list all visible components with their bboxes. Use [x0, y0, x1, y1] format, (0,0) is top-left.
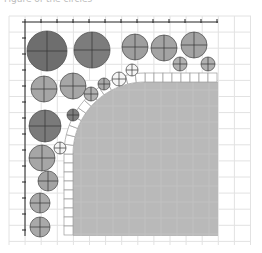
circle-marker	[112, 72, 126, 86]
tile	[135, 73, 145, 83]
circle-marker	[122, 34, 148, 60]
circle-marker	[173, 57, 187, 71]
circle-marker	[84, 87, 98, 101]
circle-marker	[74, 32, 110, 68]
circle-marker	[30, 217, 50, 237]
tile	[163, 73, 172, 82]
circle-marker	[67, 109, 79, 121]
tile	[154, 73, 163, 82]
circle-marker	[98, 78, 110, 90]
tile	[199, 73, 208, 82]
tile	[64, 199, 73, 208]
circle-packing-diagram	[0, 0, 262, 253]
circle-marker	[27, 31, 67, 71]
tile	[64, 190, 73, 199]
circle-marker	[126, 64, 138, 76]
tile	[181, 73, 190, 82]
tile	[64, 208, 73, 217]
circle-marker	[30, 193, 50, 213]
tile	[64, 226, 73, 235]
circle-marker	[54, 142, 66, 154]
tile	[64, 217, 73, 226]
tile	[208, 73, 217, 82]
circle-marker	[60, 73, 86, 99]
tile	[172, 73, 181, 82]
circle-marker	[31, 76, 57, 102]
circle-marker	[201, 57, 215, 71]
circle-marker	[151, 35, 177, 61]
circle-marker	[181, 32, 207, 58]
rounded-square-region	[72, 81, 218, 236]
tile	[64, 163, 73, 172]
tile	[64, 181, 73, 190]
shaded-region	[73, 82, 218, 236]
circle-marker	[29, 110, 61, 142]
tile	[145, 73, 154, 82]
tile	[64, 172, 73, 181]
circle-marker	[29, 145, 55, 171]
circle-marker	[38, 171, 58, 191]
tile	[190, 73, 199, 82]
tile	[64, 154, 73, 163]
